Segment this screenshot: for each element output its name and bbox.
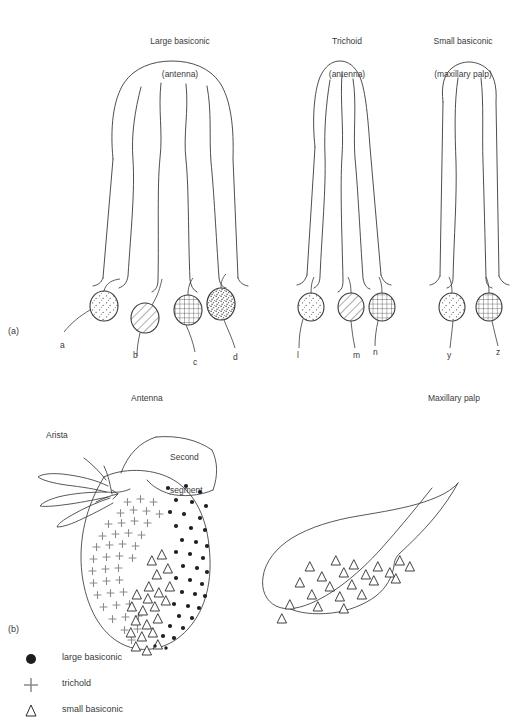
large-basiconic-marks-antenna (153, 484, 209, 650)
filled-circle-icon (20, 648, 42, 670)
legend-row-large-basiconic: large basiconic (0, 648, 513, 674)
panel-a-drawing (0, 0, 513, 380)
cross-section-label-l: l (297, 350, 299, 361)
legend-row-trichoid: trichold (0, 674, 513, 700)
cross-section-a (64, 279, 120, 332)
legend-label-trichoid: trichold (62, 678, 91, 688)
open-triangle-icon (20, 700, 42, 722)
cross-section-d (207, 274, 235, 348)
figure-root: Large basiconic (antenna) Trichoid (ante… (0, 0, 513, 724)
antenna-title: Antenna (131, 393, 163, 404)
legend-label-small-basiconic: small basiconic (62, 704, 123, 714)
cross-section-l (298, 277, 324, 348)
cross-section-c (174, 278, 202, 352)
cross-section-z (476, 277, 502, 346)
cross-section-y (439, 277, 465, 348)
legend: large basiconic trichold small basiconic (0, 648, 513, 724)
cross-section-label-y: y (447, 350, 451, 361)
cross-section-label-m: m (353, 350, 360, 361)
cross-section-label-b: b (133, 350, 138, 361)
small-basiconic-marks-antenna (127, 550, 175, 655)
legend-label-large-basiconic: large basiconic (62, 652, 122, 662)
cross-section-label-n: n (373, 347, 378, 358)
cross-section-label-z: z (496, 347, 500, 358)
cross-section-n (369, 277, 395, 346)
plus-icon (20, 674, 42, 696)
trichoid-marks-antenna (89, 496, 163, 644)
cross-section-b (131, 279, 162, 356)
maxillary-palp-title: Maxillary palp (428, 393, 480, 404)
cross-section-label-c: c (193, 357, 197, 368)
cross-section-label-a: a (60, 340, 65, 351)
cross-section-label-d: d (233, 352, 238, 363)
legend-row-small-basiconic: small basiconic (0, 700, 513, 724)
